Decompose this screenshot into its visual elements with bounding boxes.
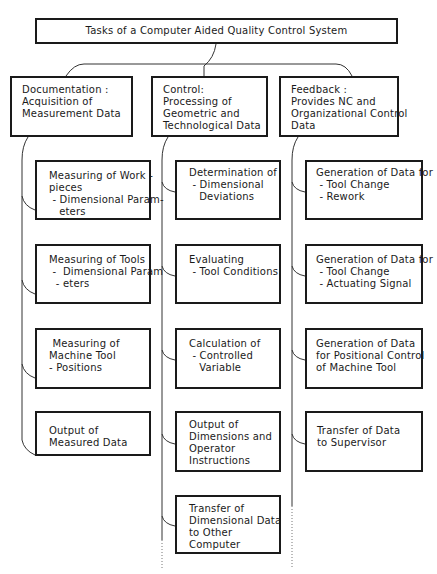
task-line: - Rework	[316, 191, 421, 203]
spine-documentation	[22, 137, 28, 440]
task-line: Measured Data	[49, 437, 149, 449]
task-line: eters	[49, 206, 149, 218]
task-line: - Controlled	[189, 350, 279, 362]
task-line: - Actuating Signal	[316, 278, 421, 290]
task-line: Output of	[49, 425, 149, 437]
task-line: - Tool Conditions	[189, 266, 279, 278]
branch-control: Control: Processing of Geometric and Tec…	[151, 76, 268, 137]
task-evaluating: Evaluating - Tool Conditions	[175, 244, 281, 304]
task-line: Evaluating	[189, 254, 279, 266]
root-title: Tasks of a Computer Aided Quality Contro…	[86, 25, 348, 37]
task-line: Dimensional Data	[189, 515, 279, 527]
heading-line: Technological Data	[163, 120, 266, 132]
task-line: - Tool Change	[316, 179, 421, 191]
task-generation-positional-control: Generation of Data for Positional Contro…	[305, 328, 423, 389]
task-line: pieces	[49, 182, 149, 194]
task-line: of Machine Tool	[316, 362, 421, 374]
task-line: - eters	[49, 278, 149, 290]
task-transfer-supervisor: Transfer of Data to Supervisor	[305, 411, 423, 472]
spine-feedback	[292, 137, 298, 506]
task-line: Computer	[189, 539, 279, 551]
task-line: Dimensions and	[189, 431, 279, 443]
root-node: Tasks of a Computer Aided Quality Contro…	[35, 18, 398, 44]
task-line: Generation of Data	[316, 338, 421, 350]
branch-feedback: Feedback : Provides NC and Organizationa…	[279, 76, 399, 137]
task-line: to Supervisor	[317, 437, 421, 449]
heading-line: Geometric and	[163, 108, 266, 120]
task-line: - Dimensional Param	[49, 266, 149, 278]
task-line: Deviations	[189, 191, 279, 203]
task-line: Calculation of	[189, 338, 279, 350]
task-line: to Other	[189, 527, 279, 539]
task-line: Measuring of Tools	[49, 254, 149, 266]
task-line: Transfer of	[189, 503, 279, 515]
task-measuring-machine-tool: Measuring of Machine Tool - Positions	[35, 328, 151, 389]
task-line: Generation of Data for	[316, 254, 421, 266]
heading-line: Feedback :	[291, 84, 397, 96]
heading-line: Documentation :	[22, 84, 131, 96]
level2-bar	[66, 64, 352, 76]
task-line: Output of	[189, 419, 279, 431]
heading-line: Organizational Control	[291, 108, 397, 120]
heading-line: Measurement Data	[22, 108, 131, 120]
heading-line: Data	[291, 120, 397, 132]
task-transfer-dimensional-data: Transfer of Dimensional Data to Other Co…	[175, 495, 281, 554]
task-line: Variable	[189, 362, 279, 374]
task-line: - Tool Change	[316, 266, 421, 278]
task-output-measured-data: Output of Measured Data	[35, 411, 151, 456]
task-line: Measuring of	[49, 338, 149, 350]
task-generation-rework: Generation of Data for - Tool Change - R…	[305, 160, 423, 220]
task-line: Generation of Data for	[316, 167, 421, 179]
task-generation-actuating-signal: Generation of Data for - Tool Change - A…	[305, 244, 423, 304]
task-line: Transfer of Data	[317, 425, 421, 437]
task-line: for Positional Control	[316, 350, 421, 362]
task-line: Machine Tool	[49, 350, 149, 362]
task-output-dimensions: Output of Dimensions and Operator Instru…	[175, 411, 281, 472]
task-determination: Determination of - Dimensional Deviation…	[175, 160, 281, 220]
heading-line: Provides NC and	[291, 96, 397, 108]
branch-documentation: Documentation : Acquisition of Measureme…	[10, 76, 133, 137]
heading-line: Control:	[163, 84, 266, 96]
task-measuring-tools: Measuring of Tools - Dimensional Param -…	[35, 244, 151, 304]
task-calculation: Calculation of - Controlled Variable	[175, 328, 281, 389]
task-line: Measuring of Work -	[49, 170, 149, 182]
task-line: - Positions	[49, 362, 149, 374]
task-measuring-workpieces: Measuring of Work - pieces - Dimensional…	[35, 160, 151, 220]
root-connector	[204, 44, 216, 66]
task-line: Operator	[189, 443, 279, 455]
heading-line: Acquisition of	[22, 96, 131, 108]
task-line: - Dimensional	[189, 179, 279, 191]
task-line: Determination of	[189, 167, 279, 179]
task-line: - Dimensional Param-	[49, 194, 149, 206]
heading-line: Processing of	[163, 96, 266, 108]
task-line: Instructions	[189, 455, 279, 467]
